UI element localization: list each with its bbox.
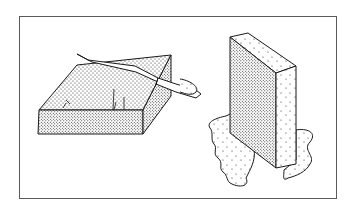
flat-foam-block	[38, 55, 171, 134]
illustration-canvas	[0, 0, 353, 212]
